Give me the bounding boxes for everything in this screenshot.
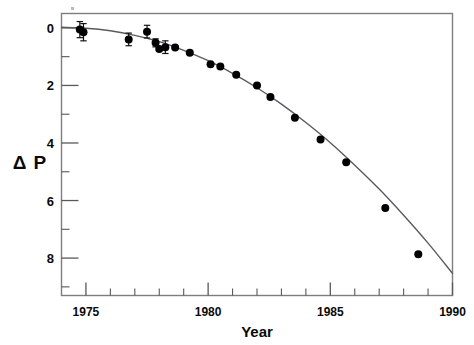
x-tick-label: 1990 [439,305,466,319]
y-axis-title: Δ P [13,152,48,173]
x-axis-tick-labels: 1975198019851990 [73,305,467,319]
y-axis-tick-labels: 02468 [47,21,55,266]
data-point [186,49,194,57]
error-bars [77,22,169,54]
x-tick-label: 1985 [317,305,344,319]
data-point [125,35,133,43]
data-point [143,28,151,36]
y-tick-label: 2 [47,78,54,93]
data-point [207,60,215,68]
y-axis-ticks [62,28,79,287]
data-point [414,250,422,258]
x-axis-ticks [86,283,453,296]
figure-container: 02468 1975198019851990 Δ P Year [0,0,474,345]
y-tick-label: 4 [47,136,55,151]
x-tick-label: 1975 [73,305,100,319]
data-point [381,204,389,212]
data-point [232,71,240,79]
delta-p-vs-year-chart: 02468 1975198019851990 Δ P Year [0,0,474,345]
data-point [291,114,299,122]
data-point [342,158,350,166]
data-point [317,136,325,144]
scan-speck [71,7,74,10]
data-point [216,62,224,70]
y-tick-label: 0 [47,21,54,36]
plot-frame [62,14,453,296]
data-point [171,43,179,51]
model-prediction-curve [62,27,453,273]
data-point [79,28,87,36]
data-point [266,93,274,101]
y-tick-label: 6 [47,194,54,209]
data-points [76,26,422,259]
data-point [253,81,261,89]
y-tick-label: 8 [47,251,54,266]
x-tick-label: 1980 [195,305,222,319]
x-axis-title: Year [241,323,273,340]
data-point [161,43,169,51]
